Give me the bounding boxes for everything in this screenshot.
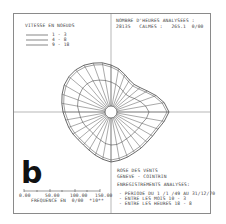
figure-label: b (21, 158, 42, 188)
footer-title-1: ROSE DES VENTS (117, 168, 158, 174)
rose-polygons (62, 63, 169, 162)
header-line-1: NOMBRE D'HEURES ANALYSEES : (116, 18, 195, 24)
header-line-2: 28135 CALMES : 265.1 0/00 (116, 24, 203, 30)
legend-title: VITESSE EN NOEUDS (25, 23, 75, 29)
legend-lines (26, 35, 48, 45)
scale-axis-label: FREQUENCE EN 0/00 *10** (31, 198, 104, 204)
footer-subtitle: ENREGISTREMENTS ANALYSES: (117, 182, 190, 188)
footer-title-2: GENEVE - COINTRIN (117, 174, 167, 180)
legend-entry: 9 - 18 (52, 42, 70, 48)
footer-item: - ENTRE LES HEURES 18 - 8 (119, 201, 192, 207)
scale-tick-label: 0.00 (19, 193, 31, 199)
